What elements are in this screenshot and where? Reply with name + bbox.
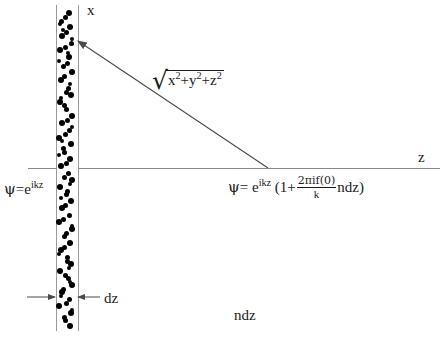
radical-body: x2+y2+z2 [166, 70, 224, 88]
scatterer-dot [61, 146, 66, 151]
scatterer-dot [62, 175, 67, 180]
scatterer-dot [65, 118, 70, 123]
scatterer-dot [67, 24, 73, 30]
scatterer-dot [65, 61, 70, 66]
base-e-left: e [24, 181, 31, 197]
scatterer-dot [63, 203, 68, 208]
scatterer-dot [59, 96, 63, 100]
scatterer-dot [68, 82, 72, 86]
scatterer-dot [64, 90, 69, 95]
term-z: z [210, 72, 217, 88]
scatterer-dot [57, 153, 61, 157]
scatterer-dot [70, 37, 74, 41]
scatterer-dot [61, 28, 65, 32]
scatterer-dot [69, 113, 75, 119]
incident-wave-equation: ψ=eikz [4, 182, 43, 197]
scatterer-dot [57, 59, 61, 63]
scatterer-dot [64, 301, 69, 306]
scatterer-dot [57, 268, 63, 274]
scatterer-dot [67, 213, 72, 218]
fraction-denominator: k [297, 188, 336, 201]
psi-symbol-left: ψ [4, 180, 16, 198]
scatterer-dot [62, 74, 67, 79]
scatterer-dot [70, 125, 74, 129]
open-paren-one-plus: (1+ [275, 179, 296, 195]
scatterer-dot [63, 273, 68, 278]
scatterer-dot [63, 132, 68, 137]
scatterer-dot [66, 51, 70, 55]
scatterer-dot [64, 231, 69, 236]
psi-symbol-right: ψ [228, 178, 240, 196]
scatterer-dot [65, 259, 70, 264]
scatterer-dot [67, 240, 73, 246]
scatterer-dot [68, 141, 74, 147]
distance-expression: √x2+y2+z2 [152, 70, 224, 90]
scatterer-dot [68, 198, 74, 204]
ndz-tail: ndz) [337, 179, 364, 195]
scatterer-dot [60, 139, 64, 143]
thickness-label: dz [104, 291, 118, 306]
scatterer-dot [62, 245, 67, 250]
scattered-wave-equation: ψ= eikz (1+2πif(0)kndz) [228, 176, 364, 201]
exponent-ikz-right: ikz [259, 177, 271, 188]
scattering-diagram: x z √x2+y2+z2 ψ=eikz ψ= eikz (1+2πif(0)k… [0, 0, 447, 346]
scatterer-dot [65, 189, 70, 194]
exponent-ikz-left: ikz [31, 179, 43, 190]
z-axis-label: z [418, 150, 425, 165]
scatterer-dot [57, 184, 63, 190]
plus-2: + [202, 72, 210, 88]
scatterer-dot [70, 224, 74, 228]
equals-right: = [240, 179, 248, 195]
z-axis-line [28, 168, 440, 169]
x-axis-label: x [87, 3, 95, 18]
areal-density-label: ndz [234, 308, 256, 323]
fraction-numerator: 2πif(0) [297, 175, 336, 188]
scatterer-dot [67, 266, 71, 270]
scatterer-dot [61, 217, 66, 222]
scatterer-dot [64, 161, 69, 166]
scatterer-dot [68, 92, 74, 98]
term-y: y [189, 72, 197, 88]
scatterer-dot [56, 303, 62, 309]
equals-left: = [16, 181, 24, 197]
scatterer-dot [62, 315, 67, 320]
scatterer-slab [56, 5, 79, 331]
scatterer-dot [68, 280, 72, 284]
scatterer-dot [57, 252, 61, 256]
ray-line [78, 41, 268, 168]
scatterer-dot [63, 45, 68, 50]
scatterer-dot [69, 41, 74, 46]
scatterer-dot [68, 182, 72, 186]
scatterer-dot [70, 308, 74, 312]
exponent-z: 2 [217, 70, 222, 81]
scatterer-dot [63, 15, 68, 20]
scatterer-dot [58, 22, 62, 26]
scatterer-dot [59, 294, 63, 298]
base-e-right: e [252, 179, 259, 195]
scatterer-dot [69, 69, 75, 75]
scatterer-dot [59, 196, 63, 200]
amplitude-fraction: 2πif(0)k [297, 175, 336, 200]
plus-1: + [181, 72, 189, 88]
scatterer-dot [62, 103, 67, 108]
scatterer-dot [61, 287, 66, 292]
scatterer-dot [67, 323, 73, 329]
